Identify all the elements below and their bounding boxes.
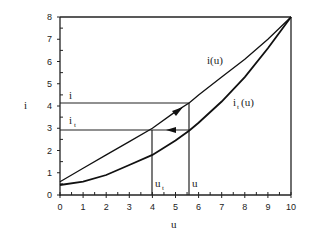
- x-axis-label: u: [171, 218, 177, 230]
- x-tick-label: 7: [219, 202, 224, 212]
- hline-i-label: i: [69, 89, 72, 101]
- y-tick-label: 5: [47, 79, 52, 89]
- y-tick-label: 3: [47, 123, 52, 133]
- arrow-left-icon: [166, 127, 176, 133]
- x-tick-label: 0: [58, 202, 63, 212]
- curve-i-u-label: i(u): [207, 54, 223, 67]
- x-tick-label: 9: [265, 202, 270, 212]
- y-tick-label: 2: [47, 146, 52, 156]
- x-ticks: [60, 192, 291, 198]
- y-axis-label: i: [24, 99, 27, 111]
- y-tick-label: 0: [47, 190, 52, 200]
- y-tick-labels: 012345678: [47, 12, 52, 200]
- svg-text:(u): (u): [241, 96, 254, 109]
- x-tick-label: 3: [127, 202, 132, 212]
- x-tick-label: 1: [81, 202, 86, 212]
- x-tick-labels: 012345678910: [58, 202, 297, 212]
- y-tick-label: 4: [47, 101, 52, 111]
- y-tick-label: 7: [47, 34, 52, 44]
- y-tick-label: 8: [47, 12, 52, 22]
- x-tick-label: 6: [196, 202, 201, 212]
- vline-u-label: u: [192, 177, 198, 189]
- hline-it-label: i t: [69, 114, 76, 129]
- x-tick-label: 10: [286, 202, 296, 212]
- svg-text:t: t: [237, 103, 239, 111]
- x-tick-label: 2: [104, 202, 109, 212]
- x-tick-label: 8: [242, 202, 247, 212]
- vline-ut-label: u t: [155, 177, 164, 192]
- axes: [60, 17, 291, 196]
- x-tick-label: 4: [150, 202, 155, 212]
- x-tick-label: 5: [173, 202, 178, 212]
- curve-i-u: [60, 17, 291, 182]
- chart: 012345678 012345678910 i u i(u) i t (u) …: [0, 0, 311, 239]
- arrow-up-right-icon: [172, 107, 183, 116]
- y-tick-label: 6: [47, 57, 52, 67]
- svg-text:t: t: [74, 121, 76, 129]
- svg-text:u: u: [155, 177, 161, 189]
- curve-it-u-label: i t (u): [233, 96, 254, 111]
- svg-text:i: i: [233, 96, 236, 108]
- y-tick-label: 1: [47, 168, 52, 178]
- svg-text:i: i: [69, 114, 72, 126]
- svg-text:t: t: [162, 184, 164, 192]
- construction-lines: [60, 103, 189, 195]
- curve-it-u: [60, 17, 291, 185]
